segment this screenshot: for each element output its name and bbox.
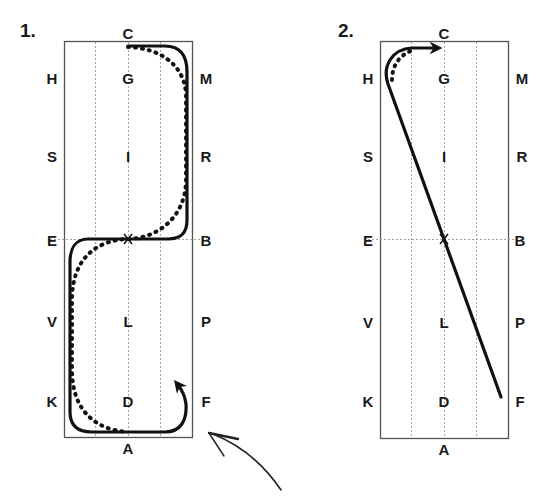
arena-1-letter-f: F (201, 394, 210, 409)
arena-2-letter-k: K (363, 394, 374, 409)
arena-2-letter-a: A (439, 442, 450, 457)
arena-2-letter-v: V (363, 315, 373, 330)
arena-2-letter-d: D (439, 394, 450, 409)
arena-1-letter-a: A (123, 441, 134, 456)
arena-2-solid-path (386, 48, 501, 397)
arena-1-letter-p: P (201, 314, 211, 329)
arena-1-letter-m: M (200, 71, 213, 86)
hand-drawn-arrow-icon (209, 433, 281, 490)
diagram-canvas (0, 0, 548, 503)
arena-1-letter-k: K (47, 394, 58, 409)
arena-1-letter-i: I (126, 149, 130, 164)
arena-2-letter-c: C (439, 26, 450, 41)
arena-2-letter-g: G (438, 71, 450, 86)
arena-1-letter-d: D (123, 394, 134, 409)
arena-2-letter-m: M (516, 71, 529, 86)
arena-2-letter-h: H (363, 71, 374, 86)
arena-1-letter-c: C (123, 26, 134, 41)
arena-1-letter-r: R (201, 149, 212, 164)
arena-1 (50, 42, 207, 438)
arena-1-letter-v: V (47, 314, 57, 329)
arena-2 (368, 42, 524, 439)
arena-2-letter-l: L (439, 315, 448, 330)
arena-2-letter-r: R (517, 149, 528, 164)
arena-2-letter-f: F (515, 394, 524, 409)
arena-1-letter-l: L (123, 314, 132, 329)
arena-2-letter-p: P (515, 315, 525, 330)
arena-1-letter-b: B (201, 233, 212, 248)
arena-1-letter-h: H (47, 71, 58, 86)
arena-1-letter-g: G (122, 71, 134, 86)
arena-2-letter-b: B (515, 233, 526, 248)
arena-1-letter-e: E (47, 233, 57, 248)
arena-2-letter-s: S (363, 149, 373, 164)
arena-1-letter-s: S (47, 149, 57, 164)
arena-2-letter-i: I (442, 149, 446, 164)
arena-2-letter-e: E (363, 233, 373, 248)
